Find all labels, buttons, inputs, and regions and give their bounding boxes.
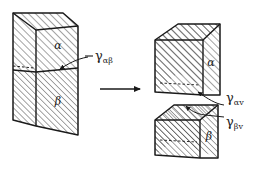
gamma-beta-v-subscript: βv	[234, 122, 244, 131]
right-lower-block-group: β	[155, 105, 218, 158]
alpha-block-label: α	[207, 56, 215, 69]
beta-block-left-front-face	[155, 120, 200, 158]
diagram-svg: α β γαβ α β	[0, 0, 256, 170]
alpha-block-left-front-face	[155, 40, 203, 95]
right-upper-block-group: α	[155, 24, 220, 95]
left-block-beta-side-face	[13, 70, 36, 126]
beta-block-label: β	[205, 130, 212, 143]
gamma-alphabeta-subscript: αβ	[103, 56, 113, 65]
left-block-alpha-label: α	[54, 39, 62, 52]
gamma-alpha-v-subscript: αv	[234, 98, 244, 107]
figure-canvas: α β γαβ α β	[0, 0, 256, 170]
left-block-beta-label: β	[54, 95, 61, 108]
